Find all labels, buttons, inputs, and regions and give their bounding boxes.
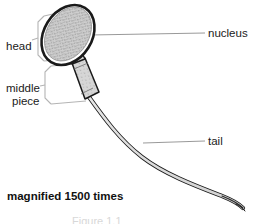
caption-figure-number: Figure 1.1	[72, 215, 122, 224]
leader-line-nucleus	[90, 33, 205, 35]
label-head: head	[6, 40, 32, 53]
sperm-head	[31, 0, 106, 75]
label-middle-piece-line1: middle	[6, 82, 40, 94]
caption-magnification: magnified 1500 times	[7, 190, 123, 202]
sperm-cell-diagram: head middlepiece nucleus tail magnified …	[0, 0, 276, 224]
label-tail: tail	[208, 135, 223, 148]
leader-line-tail	[143, 141, 205, 143]
label-middle-piece-line2: piece	[6, 95, 40, 108]
sperm-middle-piece	[72, 58, 99, 99]
label-middle-piece: middlepiece	[6, 82, 40, 108]
label-nucleus: nucleus	[208, 27, 248, 40]
